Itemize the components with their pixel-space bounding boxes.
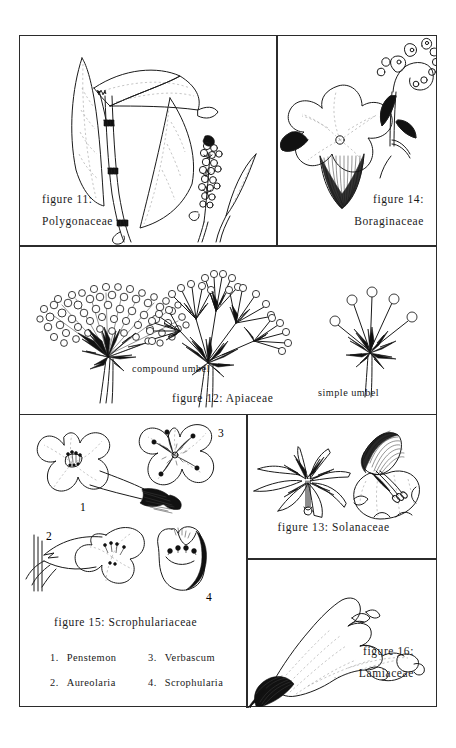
diagram-number-4: 4 bbox=[206, 591, 212, 603]
caption-figure-14-line2: Boraginaceae bbox=[354, 210, 424, 232]
scrophulariaceae-drawing: 1 3 2 bbox=[20, 415, 246, 708]
caption-figure-11-line1: figure 11: bbox=[42, 188, 113, 210]
panel-figure-15-scrophulariaceae: 1 3 2 bbox=[20, 415, 246, 708]
caption-figure-11: figure 11: Polygonaceae bbox=[42, 188, 113, 233]
legend-num-3: 3. bbox=[148, 652, 157, 663]
diagram-number-2: 2 bbox=[46, 530, 52, 542]
caption-figure-12: figure 12: Apiaceae bbox=[172, 387, 273, 409]
diagram-number-1: 1 bbox=[80, 501, 86, 513]
diagram-number-3: 3 bbox=[218, 427, 224, 439]
panel-figure-11-polygonaceae: figure 11: Polygonaceae bbox=[20, 36, 276, 245]
legend-name-3: Verbascum bbox=[165, 652, 215, 663]
caption-figure-16: figure 16: Lamiaceae bbox=[359, 640, 414, 685]
panel-figure-13-solanaceae: figure 13: Solanaceae bbox=[248, 415, 437, 558]
illustration-plate: figure 11: Polygonaceae bbox=[19, 35, 437, 707]
caption-figure-16-line2: Lamiaceae bbox=[359, 662, 414, 684]
panel-figure-14-boraginaceae: figure 14: Boraginaceae bbox=[278, 36, 437, 245]
legend-item-4: 4. Scrophularia bbox=[148, 677, 223, 688]
lamiaceae-drawing bbox=[248, 560, 437, 708]
caption-figure-16-line1: figure 16: bbox=[359, 640, 414, 662]
caption-figure-14-line1: figure 14: bbox=[354, 188, 424, 210]
legend-name-4: Scrophularia bbox=[165, 677, 224, 688]
legend-num-1: 1. bbox=[50, 652, 59, 663]
panel-figure-12-apiaceae: compound umbel figure 12: Apiaceae simpl… bbox=[20, 247, 436, 414]
caption-figure-11-line2: Polygonaceae bbox=[42, 210, 113, 232]
legend-num-4: 4. bbox=[148, 677, 157, 688]
legend-name-1: Penstemon bbox=[67, 652, 117, 663]
legend-item-1: 1. Penstemon bbox=[50, 652, 116, 663]
legend-item-2: 2. Aureolaria bbox=[50, 677, 116, 688]
label-simple-umbel: simple umbel bbox=[318, 387, 379, 398]
panel-figure-16-lamiaceae: figure 16: Lamiaceae bbox=[248, 560, 437, 709]
caption-figure-14: figure 14: Boraginaceae bbox=[354, 188, 424, 233]
caption-figure-15: figure 15: Scrophulariaceae bbox=[54, 611, 197, 633]
label-compound-umbel: compound umbel bbox=[132, 363, 210, 374]
legend-num-2: 2. bbox=[50, 677, 59, 688]
legend-item-3: 3. Verbascum bbox=[148, 652, 215, 663]
legend-name-2: Aureolaria bbox=[67, 677, 116, 688]
caption-figure-13: figure 13: Solanaceae bbox=[278, 516, 390, 538]
